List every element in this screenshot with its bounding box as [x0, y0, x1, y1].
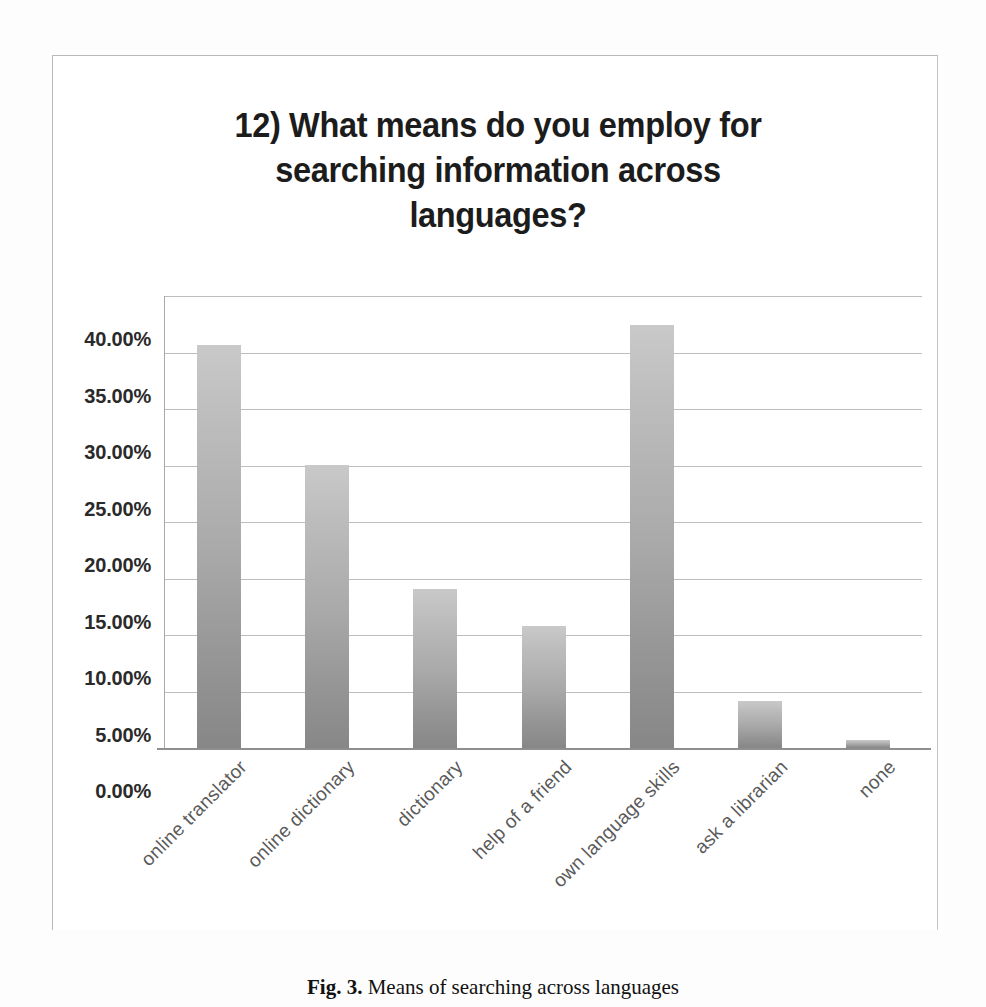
bar: [197, 345, 241, 748]
x-axis-tick-label-text: none: [854, 756, 900, 802]
x-axis-tick-label-text: online dictionary: [243, 756, 359, 872]
y-axis-tick-label: 30.00%: [84, 441, 151, 464]
scanned-page: 12) What means do you employ for searchi…: [0, 0, 986, 1007]
y-axis-tick-label: 20.00%: [84, 554, 151, 577]
x-axis-tick-label-text: online translator: [137, 756, 252, 871]
y-axis-tick-label: 15.00%: [84, 610, 151, 633]
bar: [522, 626, 566, 748]
chart-figure-frame: 12) What means do you employ for searchi…: [52, 55, 938, 930]
x-axis-tick-label-text: help of a friend: [469, 756, 577, 864]
y-axis-tick-label: 35.00%: [84, 384, 151, 407]
x-axis-tick-label-text: ask a librarian: [690, 756, 792, 858]
plot-area: [164, 296, 922, 748]
y-axis-tick-label: 5.00%: [95, 723, 151, 746]
y-axis-tick-label: 40.00%: [84, 328, 151, 351]
figure-caption-text: Means of searching across languages: [362, 975, 679, 999]
plot-wrapper: 40.00%35.00%30.00%25.00%20.00%15.00%10.0…: [53, 56, 939, 931]
x-axis: online translatoronline dictionarydictio…: [164, 756, 921, 931]
figure-caption: Fig. 3. Means of searching across langua…: [0, 975, 986, 1000]
figure-caption-label: Fig. 3.: [307, 975, 362, 999]
bar: [846, 740, 890, 748]
y-axis-tick-label: 10.00%: [84, 667, 151, 690]
y-axis: 40.00%35.00%30.00%25.00%20.00%15.00%10.0…: [53, 284, 157, 756]
y-axis-tick-label: 0.00%: [95, 780, 151, 803]
bar-series: [165, 296, 922, 748]
y-axis-tick-label: 25.00%: [84, 497, 151, 520]
x-axis-tick-label-text: dictionary: [392, 756, 467, 831]
